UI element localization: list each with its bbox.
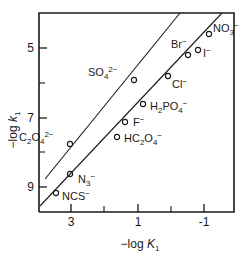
- x-axis-label-prefix: −log: [121, 237, 147, 251]
- point-label-ncs: NCS−: [62, 189, 90, 202]
- point-label-c2o4: C2O42−: [19, 130, 54, 146]
- data-point-ncs: [53, 190, 58, 195]
- data-point-c2o4: [67, 141, 72, 146]
- point-label-no3: NO3−: [213, 21, 239, 37]
- data-point-hc2o4: [114, 134, 119, 139]
- point-label-cl: Cl−: [172, 77, 187, 90]
- chart-figure: 5 7 9 3 1 -1 −log k1 −log K1: [0, 0, 249, 260]
- x-tick-label-3: 3: [68, 215, 75, 229]
- trendline-lower: [40, 13, 222, 206]
- plot-frame: [39, 13, 234, 212]
- x-tick-labels: 3 1 -1: [68, 215, 210, 229]
- y-tick-labels: 5 7 9: [27, 41, 34, 194]
- y-tick-label-9: 9: [27, 180, 34, 194]
- data-point-h2po4: [140, 101, 145, 106]
- trendline-upper: [45, 13, 180, 179]
- point-label-br: Br−: [171, 37, 187, 50]
- point-label-hc2o4: HC2O4−: [124, 131, 162, 147]
- y-tick-label-7: 7: [27, 111, 34, 125]
- x-axis-label: −log K1: [121, 237, 160, 253]
- x-tick-label-minus1: -1: [199, 215, 210, 229]
- point-label-n3: N3−: [78, 172, 95, 188]
- y-axis-label-subscript: 1: [13, 111, 22, 116]
- scatter-plot-svg: 5 7 9 3 1 -1 −log k1 −log K1: [0, 0, 249, 260]
- point-label-so4: SO42−: [88, 65, 118, 81]
- point-label-i: I−: [203, 46, 211, 59]
- data-point-i: [195, 47, 200, 52]
- x-tick-label-1: 1: [135, 215, 142, 229]
- data-point-markers: [53, 31, 211, 195]
- data-point-br: [185, 52, 190, 57]
- data-point-so4: [131, 77, 136, 82]
- data-point-f: [122, 119, 127, 124]
- point-label-f: F−: [133, 115, 145, 128]
- y-axis-label-prefix: −log: [6, 122, 20, 148]
- data-point-no3: [206, 31, 211, 36]
- y-tick-label-5: 5: [27, 41, 34, 55]
- y-axis-ticks: [39, 48, 47, 187]
- point-label-h2po4: H2PO4−: [150, 99, 188, 115]
- x-axis-label-subscript: 1: [155, 244, 160, 253]
- data-point-cl: [165, 73, 170, 78]
- svg-text:−log K1: −log K1: [121, 237, 160, 253]
- x-axis-ticks: [71, 204, 204, 212]
